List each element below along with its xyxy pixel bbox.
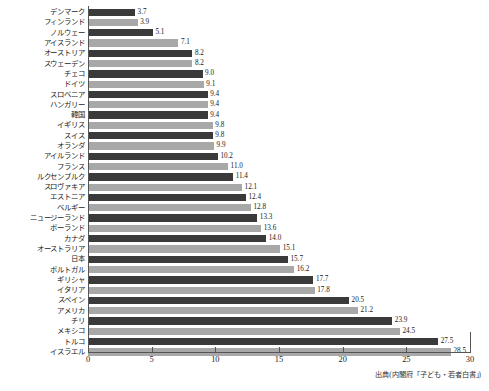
category-label: アメリカ xyxy=(2,307,88,315)
chart-row: ポルトガル16.2 xyxy=(0,264,489,274)
chart-row: 韓国9.4 xyxy=(0,110,489,120)
bar xyxy=(88,70,203,77)
category-label: ノルウェー xyxy=(2,29,88,37)
bar-group: 8.2 xyxy=(88,60,204,67)
bar-value-label: 23.9 xyxy=(395,317,408,324)
chart-row: スウェーデン8.2 xyxy=(0,58,489,68)
category-label: オーストリア xyxy=(2,49,88,57)
category-label: ルクセンブルク xyxy=(2,173,88,181)
chart-row: アメリカ21.2 xyxy=(0,306,489,316)
bar xyxy=(88,142,214,149)
bar-value-label: 8.2 xyxy=(195,60,204,67)
chart-row: スロヴァキア12.1 xyxy=(0,182,489,192)
bar xyxy=(88,256,288,263)
bar-group: 15.1 xyxy=(88,245,295,252)
bar xyxy=(88,163,228,170)
category-label: ハンガリー xyxy=(2,101,88,109)
bar-group: 12.4 xyxy=(88,194,261,201)
bar-value-label: 27.5 xyxy=(441,338,454,345)
chart-row: ルクセンブルク11.4 xyxy=(0,172,489,182)
x-axis-tick-label: 20 xyxy=(338,355,346,365)
bar xyxy=(88,184,242,191)
bar xyxy=(88,173,233,180)
category-label: アイルランド xyxy=(2,152,88,160)
bar-group: 9.4 xyxy=(88,91,219,98)
bar-group: 21.2 xyxy=(88,307,373,314)
bar-group: 12.8 xyxy=(88,204,266,211)
bar xyxy=(88,307,358,314)
category-label: ポーランド xyxy=(2,224,88,232)
bar xyxy=(88,101,208,108)
x-axis-tick xyxy=(279,347,280,353)
bar xyxy=(88,214,257,221)
source-note: 出典(内閣府「子ども・若者白書」) xyxy=(0,371,481,380)
bar xyxy=(88,9,135,16)
bar-group: 10.2 xyxy=(88,153,233,160)
x-axis-tick-label: 10 xyxy=(211,355,219,365)
chart-row: オーストラリア15.1 xyxy=(0,244,489,254)
bar xyxy=(88,266,294,273)
bar-value-label: 8.2 xyxy=(195,50,204,57)
chart-row: チリ23.9 xyxy=(0,316,489,326)
bar-value-label: 12.4 xyxy=(248,194,261,201)
chart-row: オランダ9.9 xyxy=(0,141,489,151)
bar-value-label: 7.1 xyxy=(181,39,190,46)
bar-value-label: 17.8 xyxy=(317,287,330,294)
bar xyxy=(88,132,213,139)
chart-row: フィンランド3.9 xyxy=(0,17,489,27)
bar-group: 17.7 xyxy=(88,276,328,283)
bar-group: 3.9 xyxy=(88,19,149,26)
chart-row: ベルギー12.8 xyxy=(0,203,489,213)
chart-row: ノルウェー5.1 xyxy=(0,28,489,38)
bar-value-label: 20.5 xyxy=(352,297,365,304)
bar xyxy=(88,81,204,88)
bar-value-label: 9.0 xyxy=(205,70,214,77)
bar-group: 3.7 xyxy=(88,9,147,16)
chart-row: 日本15.7 xyxy=(0,254,489,264)
category-label: ニュージーランド xyxy=(2,214,88,222)
bar-group: 27.5 xyxy=(88,338,453,345)
bar xyxy=(88,122,213,129)
bar-value-label: 15.7 xyxy=(290,256,303,263)
bar xyxy=(88,287,315,294)
bar-value-label: 14.0 xyxy=(269,235,282,242)
category-label: メキシコ xyxy=(2,327,88,335)
chart-row: エストニア12.4 xyxy=(0,192,489,202)
bar-value-label: 15.1 xyxy=(283,245,296,252)
bar-group: 12.1 xyxy=(88,184,257,191)
bar-group: 13.6 xyxy=(88,225,276,232)
bar xyxy=(88,235,266,242)
chart-row: イギリス9.8 xyxy=(0,120,489,130)
bar-value-label: 11.4 xyxy=(236,173,248,180)
bar xyxy=(88,91,208,98)
bar-group: 23.9 xyxy=(88,317,407,324)
category-label: アイスランド xyxy=(2,39,88,47)
category-label: 韓国 xyxy=(2,111,88,119)
chart-row: スペイン20.5 xyxy=(0,295,489,305)
chart-row: トルコ27.5 xyxy=(0,337,489,347)
bar-value-label: 21.2 xyxy=(360,307,373,314)
category-label: スペイン xyxy=(2,296,88,304)
bar-value-label: 13.3 xyxy=(260,214,273,221)
bar-group: 15.7 xyxy=(88,256,303,263)
bar-value-label: 9.4 xyxy=(210,112,219,119)
bar-chart: デンマーク3.7フィンランド3.9ノルウェー5.1アイスランド7.1オーストリア… xyxy=(0,0,489,391)
bar-group: 11.4 xyxy=(88,173,248,180)
bar-value-label: 12.8 xyxy=(253,204,266,211)
bar-group: 8.2 xyxy=(88,50,204,57)
bar xyxy=(88,276,313,283)
bar-group: 13.3 xyxy=(88,214,272,221)
bar-group: 9.1 xyxy=(88,81,215,88)
category-label: イタリア xyxy=(2,286,88,294)
y-axis-line xyxy=(88,6,89,352)
chart-rows: デンマーク3.7フィンランド3.9ノルウェー5.1アイスランド7.1オーストリア… xyxy=(0,7,489,357)
bar-value-label: 9.8 xyxy=(215,132,224,139)
x-axis-tick xyxy=(88,347,89,353)
bar-value-label: 13.6 xyxy=(264,225,277,232)
category-label: デンマーク xyxy=(2,8,88,16)
bar-value-label: 9.8 xyxy=(215,122,224,129)
bar xyxy=(88,194,246,201)
bar-group: 9.0 xyxy=(88,70,214,77)
chart-row: イタリア17.8 xyxy=(0,285,489,295)
x-axis-tick-label: 25 xyxy=(402,355,410,365)
